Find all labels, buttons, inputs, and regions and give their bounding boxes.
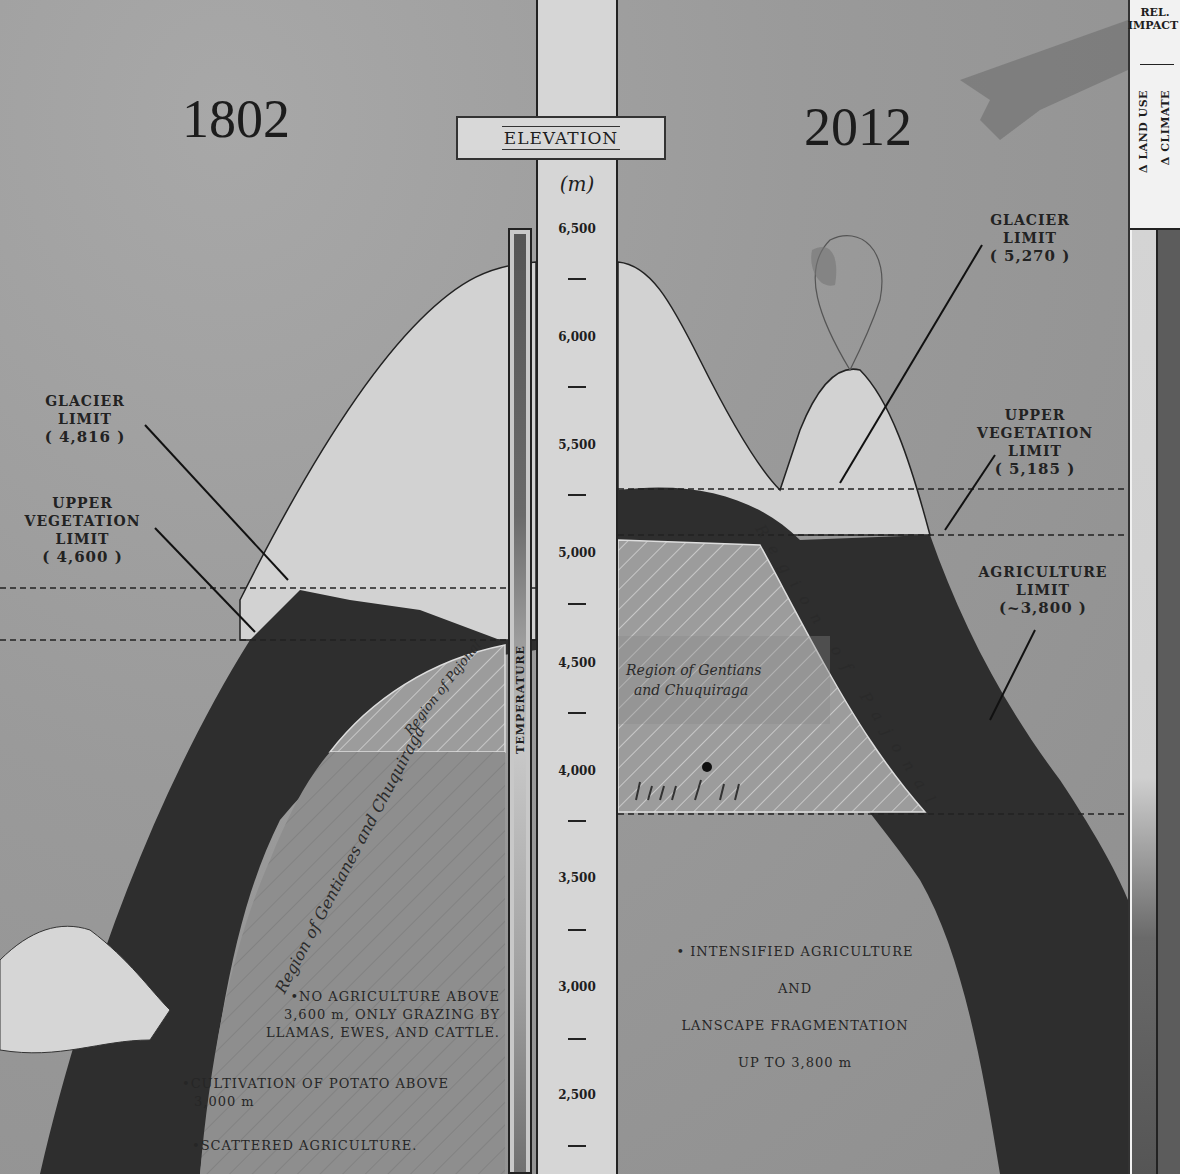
year-2012: 2012 bbox=[804, 96, 912, 158]
elevation-title-text: ELEVATION bbox=[502, 126, 620, 150]
note-line: UP TO 3,800 m bbox=[630, 1044, 960, 1081]
label-value: (~3,800 ) bbox=[958, 599, 1128, 617]
minor-tick bbox=[568, 820, 586, 822]
tick-4000: 4,000 bbox=[536, 764, 618, 778]
tick-2500: 2,500 bbox=[536, 1088, 618, 1102]
temperature-label-left: TEMPERATURE bbox=[514, 645, 527, 754]
left-glacier-label: GLACIER LIMIT ( 4,816 ) bbox=[10, 392, 160, 446]
impact-divider bbox=[1140, 64, 1174, 65]
label-value: ( 4,600 ) bbox=[0, 548, 165, 566]
land-use-bar bbox=[1132, 230, 1158, 1174]
tick-6000: 6,000 bbox=[536, 330, 618, 344]
left-mountain-snow bbox=[240, 262, 536, 640]
elevation-title: ELEVATION bbox=[456, 116, 666, 160]
tick-4500: 4,500 bbox=[536, 656, 618, 670]
note-line: •CULTIVATION OF POTATO ABOVE bbox=[182, 1075, 512, 1093]
label-line: LIMIT bbox=[10, 410, 160, 428]
right-region-gentians-label: Region of Gentians and Chuquiraga bbox=[626, 660, 761, 700]
minor-tick bbox=[568, 278, 586, 280]
minor-tick bbox=[568, 929, 586, 931]
label-line: LIMIT bbox=[0, 530, 165, 548]
airplane-silhouette bbox=[960, 20, 1128, 140]
left-vegetation-label: UPPER VEGETATION LIMIT ( 4,600 ) bbox=[0, 494, 165, 566]
impact-climate-label: Δ CLIMATE bbox=[1159, 90, 1172, 165]
minor-tick bbox=[568, 386, 586, 388]
right-vegetation-label: UPPER VEGETATION LIMIT ( 5,185 ) bbox=[960, 406, 1110, 478]
label-line: LIMIT bbox=[958, 581, 1128, 599]
impact-title-line: REL. bbox=[1130, 6, 1180, 19]
note-line: •SCATTERED AGRICULTURE. bbox=[192, 1137, 512, 1155]
tick-3000: 3,000 bbox=[536, 980, 618, 994]
tick-5500: 5,500 bbox=[536, 438, 618, 452]
right-agriculture-label: AGRICULTURE LIMIT (~3,800 ) bbox=[958, 563, 1128, 617]
impact-land-use-label: Δ LAND USE bbox=[1137, 90, 1150, 173]
note-line: AND bbox=[630, 970, 960, 1007]
label-line: LIMIT bbox=[975, 229, 1085, 247]
left-notes: •NO AGRICULTURE ABOVE 3,600 m, ONLY GRAZ… bbox=[180, 988, 500, 1042]
note-line: •NO AGRICULTURE ABOVE bbox=[180, 988, 500, 1006]
left-notes-scattered: •SCATTERED AGRICULTURE. bbox=[192, 1137, 512, 1155]
impact-bars bbox=[1130, 228, 1180, 1174]
climate-bar bbox=[1158, 230, 1180, 1174]
label-line: LIMIT bbox=[960, 442, 1110, 460]
minor-tick bbox=[568, 494, 586, 496]
label-line: GLACIER bbox=[975, 211, 1085, 229]
right-notes: • INTENSIFIED AGRICULTURE AND LANSCAPE F… bbox=[630, 933, 960, 1081]
note-line: 3,000 m bbox=[182, 1093, 512, 1111]
region-line: Region of Gentians bbox=[626, 660, 761, 680]
relative-impact-legend: REL. IMPACT Δ LAND USE Δ CLIMATE bbox=[1128, 0, 1180, 1174]
left-vegetation-arrow bbox=[155, 528, 255, 632]
tick-3500: 3,500 bbox=[536, 871, 618, 885]
year-1802: 1802 bbox=[182, 88, 290, 150]
right-agriculture-arrow bbox=[990, 630, 1035, 720]
label-line: AGRICULTURE bbox=[958, 563, 1128, 581]
label-value: ( 5,270 ) bbox=[975, 247, 1085, 265]
tick-6500: 6,500 bbox=[536, 222, 618, 236]
label-line: VEGETATION bbox=[960, 424, 1110, 442]
region-line: and Chuquiraga bbox=[626, 680, 761, 700]
left-glacier-arrow bbox=[145, 425, 288, 580]
impact-title-line: IMPACT bbox=[1126, 19, 1180, 32]
note-line: LANSCAPE FRAGMENTATION bbox=[630, 1007, 960, 1044]
label-line: UPPER bbox=[0, 494, 165, 512]
farmer-icon bbox=[702, 762, 712, 772]
impact-title: REL. IMPACT bbox=[1130, 0, 1180, 32]
minor-tick bbox=[568, 603, 586, 605]
minor-tick bbox=[568, 1038, 586, 1040]
note-line: 3,600 m, ONLY GRAZING BY bbox=[180, 1006, 500, 1024]
note-line: LLAMAS, EWES, AND CATTLE. bbox=[180, 1024, 500, 1042]
left-notes-potato: •CULTIVATION OF POTATO ABOVE 3,000 m bbox=[182, 1075, 512, 1111]
minor-tick bbox=[568, 1145, 586, 1147]
label-value: ( 4,816 ) bbox=[10, 428, 160, 446]
elevation-unit: (m) bbox=[536, 172, 618, 196]
tick-5000: 5,000 bbox=[536, 546, 618, 560]
label-line: VEGETATION bbox=[0, 512, 165, 530]
minor-tick bbox=[568, 712, 586, 714]
label-value: ( 5,185 ) bbox=[960, 460, 1110, 478]
label-line: GLACIER bbox=[10, 392, 160, 410]
note-line: • INTENSIFIED AGRICULTURE bbox=[630, 933, 960, 970]
label-line: UPPER bbox=[960, 406, 1110, 424]
right-glacier-label: GLACIER LIMIT ( 5,270 ) bbox=[975, 211, 1085, 265]
